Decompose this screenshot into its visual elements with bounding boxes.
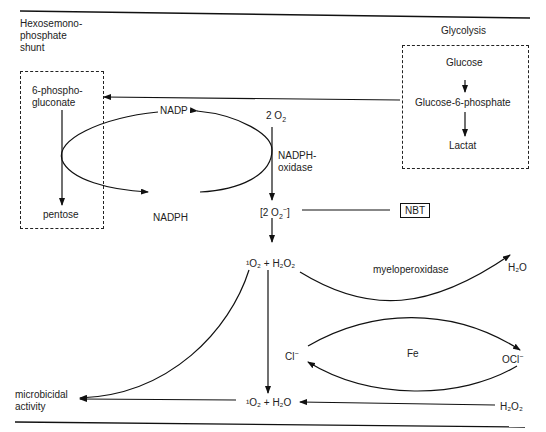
microbicidal-activity-label: microbicidal activity <box>15 389 68 413</box>
hypochlorite-label: OCl− <box>502 351 523 366</box>
nadph-label: NADPH <box>153 212 188 224</box>
chloride-label: Cl− <box>285 348 299 363</box>
fe-label: Fe <box>407 348 419 360</box>
nadp-label: NADP <box>160 105 188 117</box>
singlet-oxygen-h2o2-label: ¹O₂ + H₂O₂ <box>246 258 295 270</box>
superoxide-label: [2 O2−] <box>260 204 290 223</box>
h2o2-bottom-label: H₂O₂ <box>500 401 523 413</box>
phosphogluconate-label: 6-phospho- gluconate <box>32 85 83 109</box>
myeloperoxidase-label: myeloperoxidase <box>373 264 449 276</box>
nadph-oxidase-label: NADPH- oxidase <box>278 150 316 174</box>
hmp-shunt-title: Hexosemono- phosphate shunt <box>20 18 82 54</box>
o2-label: 2 O2 <box>266 110 286 126</box>
pentose-label: pentose <box>43 209 79 221</box>
lactat-label: Lactat <box>449 140 476 152</box>
h2o-right-label: H₂O <box>508 262 527 274</box>
glycolysis-title: Glycolysis <box>441 25 486 37</box>
singlet-oxygen-h2o-label: ¹O₂ + H₂O <box>246 397 291 409</box>
nbt-box: NBT <box>400 203 430 218</box>
glucose-6-phosphate-label: Glucose-6-phosphate <box>415 97 511 109</box>
glucose-label: Glucose <box>446 57 483 69</box>
